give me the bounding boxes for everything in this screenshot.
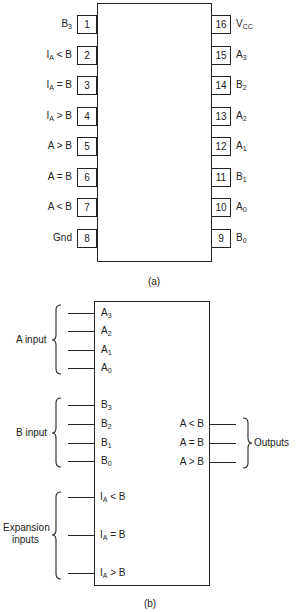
expansion-group-label-line1: Expansion <box>3 522 50 534</box>
a-input-brace-icon <box>52 305 61 374</box>
expansion-brace-icon <box>52 492 61 579</box>
b-input-group-label: B input <box>16 427 47 439</box>
brace-layer <box>0 0 296 612</box>
a-input-group-label: A input <box>16 334 47 346</box>
outputs-brace-icon <box>243 418 252 468</box>
figure-b-caption: (b) <box>130 598 170 610</box>
expansion-group-label-line2: inputs <box>12 534 39 546</box>
outputs-group-label: Outputs <box>254 437 289 449</box>
b-input-brace-icon <box>52 398 61 467</box>
